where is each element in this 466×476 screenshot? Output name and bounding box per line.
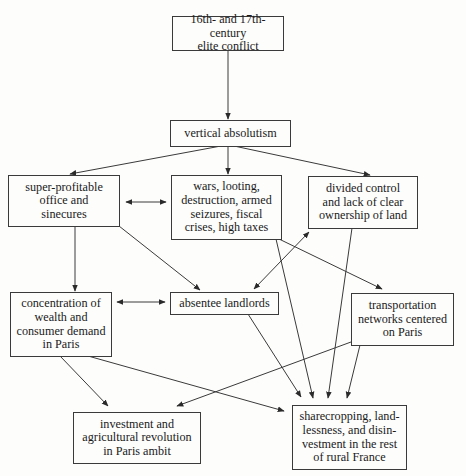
node-investment-agricultural-revolution: investment and agricultural revolution i… <box>73 412 201 464</box>
node-super-profitable-office: super-profitable office and sinecures <box>8 175 120 227</box>
edge-absentee-to-sharecropping <box>248 314 301 397</box>
edge-concentration-to-investment <box>60 356 108 406</box>
edge-absolutism-to-superprofitable <box>70 146 221 174</box>
node-absentee-landlords: absentee landlords <box>170 292 279 315</box>
node-concentration-of-wealth: concentration of wealth and consumer dem… <box>10 292 112 357</box>
node-label: wars, looting, destruction, armed seizur… <box>181 180 272 234</box>
node-divided-control: divided control and lack of clear owners… <box>308 176 418 229</box>
node-label: absentee landlords <box>179 297 269 311</box>
edge-transportation-to-sharecropping <box>347 345 360 398</box>
edge-divided-to-sharecropping <box>328 228 352 398</box>
node-transportation-networks: transportation networks centered on Pari… <box>351 293 454 346</box>
node-label: concentration of wealth and consumer dem… <box>16 297 105 351</box>
node-label: super-profitable office and sinecures <box>25 181 103 222</box>
edge-wars-to-transportation <box>279 239 382 289</box>
node-label: sharecropping, land- lessness, and disin… <box>299 410 399 464</box>
node-label: transportation networks centered on Pari… <box>358 299 447 340</box>
node-vertical-absolutism: vertical absolutism <box>170 120 291 147</box>
node-label: investment and agricultural revolution i… <box>82 418 191 459</box>
node-label: vertical absolutism <box>184 127 276 141</box>
node-wars-looting: wars, looting, destruction, armed seizur… <box>171 175 282 240</box>
node-sharecropping: sharecropping, land- lessness, and disin… <box>292 405 407 470</box>
node-elite-conflict: 16th- and 17th-century elite conflict <box>172 16 284 51</box>
edge-absolutism-to-divided <box>234 146 370 175</box>
node-label: 16th- and 17th-century elite conflict <box>176 13 280 54</box>
edge-wars-to-sharecropping <box>276 239 313 398</box>
node-label: divided control and lack of clear owners… <box>319 182 407 223</box>
edge-transportation-to-investment <box>177 342 351 406</box>
diagram-canvas: 16th- and 17th-century elite conflict ve… <box>0 0 466 476</box>
